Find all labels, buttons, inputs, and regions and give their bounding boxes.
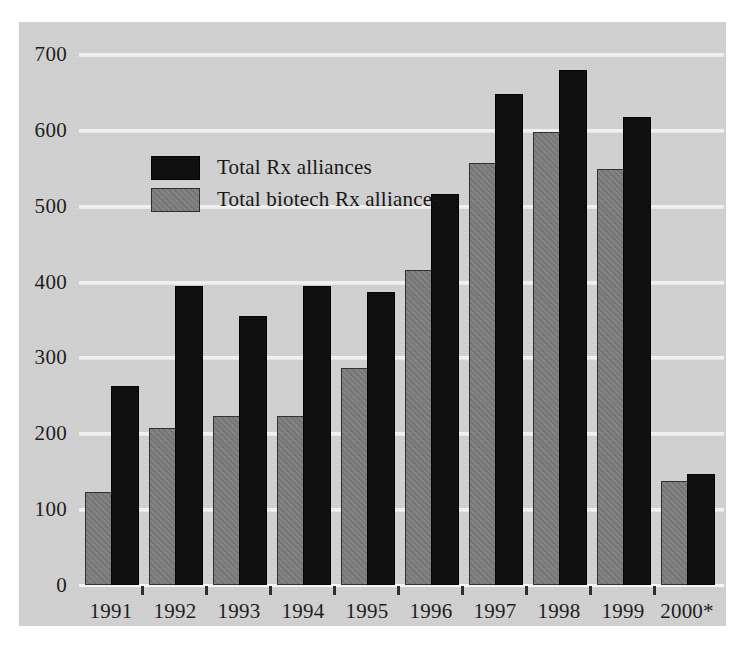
bar-1999-biotech — [597, 169, 625, 585]
x-axis-label-1996: 1996 — [399, 601, 463, 622]
x-axis-tick — [141, 586, 144, 595]
x-axis-label-1992: 1992 — [143, 601, 207, 622]
bar-1998-total — [559, 70, 587, 585]
bar-1994-biotech — [277, 416, 305, 585]
x-axis-tick — [589, 586, 592, 595]
legend-label: Total biotech Rx alliances — [217, 189, 441, 210]
bar-1998-biotech — [533, 132, 561, 585]
x-axis-tick — [269, 586, 272, 595]
y-axis-tick-label: 200 — [15, 423, 67, 444]
chart-panel: 7006005004003002001000199119921993199419… — [19, 22, 726, 626]
legend-swatch-grey — [151, 188, 200, 212]
x-axis-label-1991: 1991 — [79, 601, 143, 622]
bar-1996-biotech — [405, 270, 433, 585]
y-axis-tick-label: 0 — [15, 575, 67, 596]
x-axis-label-1994: 1994 — [271, 601, 335, 622]
x-axis-tick — [653, 586, 656, 595]
legend-item-2: Total biotech Rx alliances — [151, 186, 441, 213]
y-axis-tick-label: 100 — [15, 499, 67, 520]
bar-1993-total — [239, 316, 267, 585]
bar-1991-biotech — [85, 492, 113, 585]
bar-1999-total — [623, 117, 651, 585]
y-axis-tick-label: 600 — [15, 119, 67, 140]
x-axis-label-1998: 1998 — [527, 601, 591, 622]
x-axis-tick — [205, 586, 208, 595]
x-axis-tick — [525, 586, 528, 595]
x-axis-label-1999: 1999 — [591, 601, 655, 622]
chart-page: 7006005004003002001000199119921993199419… — [0, 0, 744, 647]
bar-1995-total — [367, 292, 395, 585]
y-axis-tick-label: 400 — [15, 271, 67, 292]
bar-1992-biotech — [149, 428, 177, 586]
x-axis-tick — [397, 586, 400, 595]
bar-1996-total — [431, 194, 459, 585]
legend-label: Total Rx alliances — [217, 157, 372, 178]
x-axis-label-2000star: 2000* — [655, 601, 719, 622]
bar-2000star-biotech — [661, 481, 689, 585]
x-axis-label-1993: 1993 — [207, 601, 271, 622]
bar-1991-total — [111, 386, 139, 585]
y-axis-tick-label: 500 — [15, 195, 67, 216]
y-axis-tick-label: 700 — [15, 44, 67, 65]
chart-legend: Total Rx alliancesTotal biotech Rx allia… — [151, 154, 441, 218]
x-axis-tick — [333, 586, 336, 595]
y-axis-tick-label: 300 — [15, 347, 67, 368]
x-axis-tick — [461, 586, 464, 595]
bar-1995-biotech — [341, 368, 369, 585]
x-axis-label-1995: 1995 — [335, 601, 399, 622]
bar-2000star-total — [687, 474, 715, 585]
bar-1994-total — [303, 286, 331, 585]
bar-1997-biotech — [469, 163, 497, 585]
figure-caption — [22, 630, 722, 646]
y-gridline — [79, 53, 724, 56]
bar-1993-biotech — [213, 416, 241, 585]
legend-item-1: Total Rx alliances — [151, 154, 441, 181]
bar-1992-total — [175, 286, 203, 585]
bar-1997-total — [495, 94, 523, 585]
x-axis-label-1997: 1997 — [463, 601, 527, 622]
legend-swatch-black — [151, 156, 200, 180]
plot-area: 7006005004003002001000199119921993199419… — [19, 22, 726, 626]
